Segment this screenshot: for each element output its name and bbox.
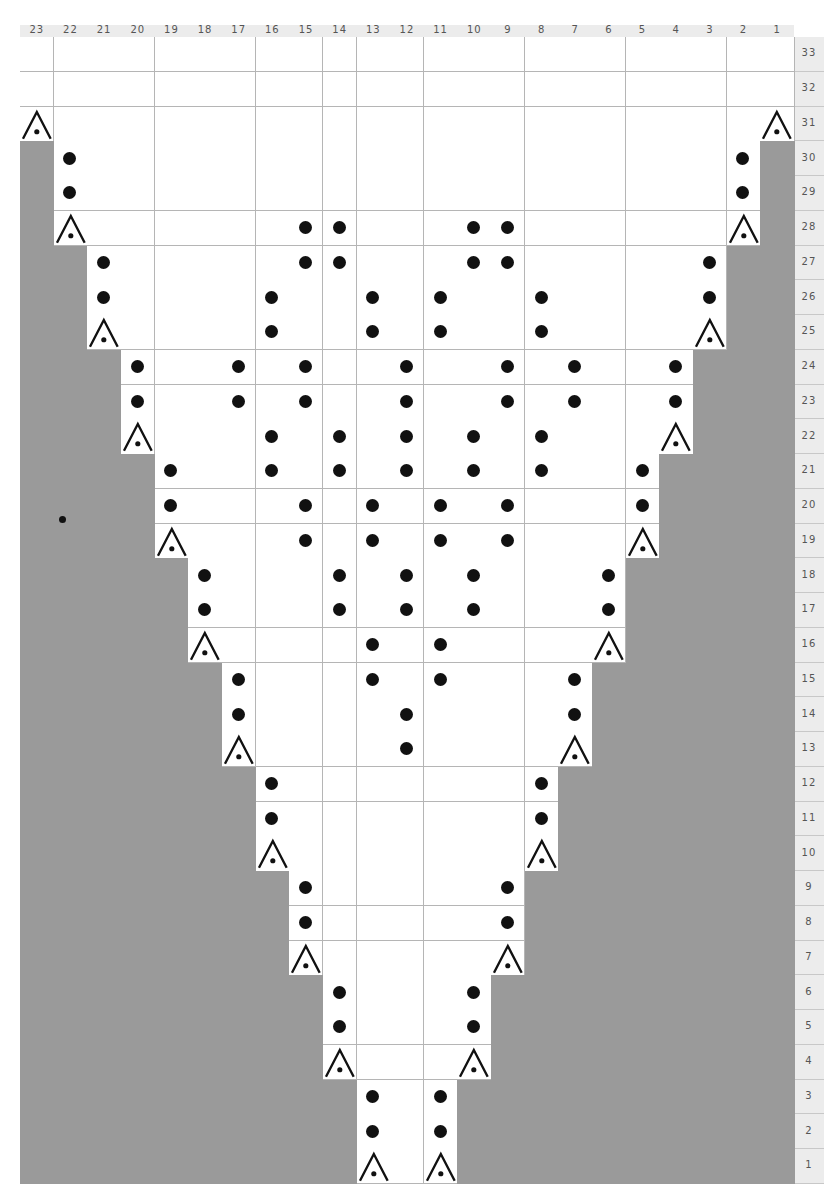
stitch-cell xyxy=(659,107,693,142)
no-stitch-cell xyxy=(693,975,727,1010)
no-stitch-cell xyxy=(323,1149,357,1184)
stitch-cell xyxy=(357,524,391,559)
no-stitch-cell xyxy=(558,906,592,941)
stitch-cell xyxy=(424,454,458,489)
stitch-cell xyxy=(357,941,391,976)
no-stitch-cell xyxy=(659,836,693,871)
stitch-cell xyxy=(592,280,626,315)
stitch-cell xyxy=(289,454,323,489)
row-number: 7 xyxy=(794,951,824,962)
no-stitch-cell xyxy=(155,906,189,941)
no-stitch-cell xyxy=(760,732,794,767)
row-divider xyxy=(794,940,824,941)
bead-dot-icon xyxy=(400,569,413,582)
no-stitch-cell xyxy=(592,1045,626,1080)
column-number: 19 xyxy=(155,24,189,35)
stitch-cell xyxy=(525,246,559,281)
stitch-cell xyxy=(87,280,121,315)
stitch-cell xyxy=(659,211,693,246)
no-stitch-cell xyxy=(87,941,121,976)
bead-dot-icon xyxy=(333,569,346,582)
stitch-cell xyxy=(626,489,660,524)
stitch-cell xyxy=(121,37,155,72)
row-divider xyxy=(794,1079,824,1080)
row-number: 30 xyxy=(794,152,824,163)
bead-dot-icon xyxy=(366,638,379,651)
stitch-cell xyxy=(457,315,491,350)
no-stitch-cell xyxy=(693,524,727,559)
stitch-cell xyxy=(256,489,290,524)
stitch-cell xyxy=(626,107,660,142)
stitch-cell xyxy=(491,558,525,593)
no-stitch-cell xyxy=(693,1080,727,1115)
no-stitch-cell xyxy=(121,628,155,663)
stitch-cell xyxy=(323,419,357,454)
stitch-cell xyxy=(222,37,256,72)
no-stitch-cell xyxy=(693,419,727,454)
stitch-cell xyxy=(357,558,391,593)
stitch-cell xyxy=(390,385,424,420)
no-stitch-cell xyxy=(20,941,54,976)
no-stitch-cell xyxy=(727,732,761,767)
stitch-cell xyxy=(390,1010,424,1045)
no-stitch-cell xyxy=(121,558,155,593)
stitch-cell xyxy=(188,558,222,593)
stitch-cell xyxy=(491,280,525,315)
no-stitch-cell xyxy=(289,1045,323,1080)
stitch-cell xyxy=(457,350,491,385)
no-stitch-cell xyxy=(20,246,54,281)
stitch-cell xyxy=(693,280,727,315)
stitch-cell xyxy=(457,836,491,871)
stitch-cell xyxy=(289,871,323,906)
bead-dot-icon xyxy=(299,499,312,512)
stitch-cell xyxy=(289,732,323,767)
no-stitch-cell xyxy=(121,454,155,489)
stitch-cell xyxy=(188,107,222,142)
column-number: 8 xyxy=(525,24,559,35)
stitch-cell xyxy=(424,211,458,246)
no-stitch-cell xyxy=(760,1114,794,1149)
stitch-cell xyxy=(289,385,323,420)
bead-dot-icon xyxy=(636,499,649,512)
stitch-cell xyxy=(760,107,794,142)
no-stitch-cell xyxy=(20,385,54,420)
no-stitch-cell xyxy=(87,697,121,732)
no-stitch-cell xyxy=(121,975,155,1010)
no-stitch-cell xyxy=(760,246,794,281)
stitch-cell xyxy=(424,1149,458,1184)
stitch-cell xyxy=(323,732,357,767)
no-stitch-cell xyxy=(121,871,155,906)
no-stitch-cell xyxy=(626,732,660,767)
no-stitch-cell xyxy=(457,1080,491,1115)
row-divider xyxy=(794,175,824,176)
bead-dot-icon xyxy=(501,499,514,512)
stitch-cell xyxy=(592,524,626,559)
row-number: 20 xyxy=(794,499,824,510)
stitch-cell xyxy=(222,419,256,454)
no-stitch-cell xyxy=(155,1149,189,1184)
bead-dot-icon xyxy=(366,1090,379,1103)
stitch-cell xyxy=(256,350,290,385)
stitch-cell xyxy=(289,246,323,281)
row-number: 14 xyxy=(794,708,824,719)
row-number: 13 xyxy=(794,742,824,753)
no-stitch-cell xyxy=(222,906,256,941)
stitch-cell xyxy=(289,176,323,211)
no-stitch-cell xyxy=(760,211,794,246)
stitch-cell xyxy=(424,767,458,802)
bead-dot-icon xyxy=(265,291,278,304)
stitch-cell xyxy=(592,315,626,350)
stitch-cell xyxy=(525,489,559,524)
stitch-cell xyxy=(222,524,256,559)
no-stitch-cell xyxy=(155,1080,189,1115)
row-divider xyxy=(794,766,824,767)
stitch-cell xyxy=(188,454,222,489)
no-stitch-cell xyxy=(727,697,761,732)
no-stitch-cell xyxy=(592,906,626,941)
stitch-cell xyxy=(357,732,391,767)
no-stitch-cell xyxy=(727,350,761,385)
no-stitch-cell xyxy=(693,732,727,767)
stitch-cell xyxy=(256,697,290,732)
stitch-cell xyxy=(87,211,121,246)
no-stitch-cell xyxy=(525,1010,559,1045)
